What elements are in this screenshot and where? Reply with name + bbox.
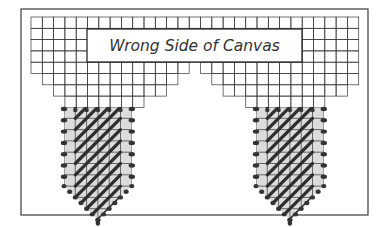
grid-cell [223, 74, 234, 85]
grid-cell [257, 62, 268, 73]
grid-cell [144, 85, 155, 96]
grid-cell [54, 62, 65, 73]
grid-cell [88, 74, 99, 85]
stitch-dot [276, 108, 280, 112]
grid-cell [65, 85, 76, 96]
grid-cell [76, 17, 87, 28]
stitch-dot [253, 175, 259, 179]
grid-cell [65, 96, 76, 107]
grid-cell [347, 62, 358, 73]
stitch-dot [61, 152, 67, 156]
grid-cell [133, 85, 144, 96]
grid-cell [336, 62, 347, 73]
stitch-dot [129, 184, 134, 188]
grid-cell [167, 74, 178, 85]
grid-cell [223, 17, 234, 28]
stitch-dot [288, 108, 292, 112]
stitch-dot [107, 108, 111, 112]
stitch-dot [304, 201, 309, 205]
grid-cell [167, 62, 178, 73]
grid-cell [257, 74, 268, 85]
stitch-dot [321, 118, 327, 122]
grid-cell [325, 85, 336, 96]
stitch-dot [118, 195, 123, 199]
grid-cell [302, 85, 313, 96]
stitch-dot [270, 201, 275, 205]
stitch-dot [129, 118, 135, 122]
grid-cell [291, 74, 302, 85]
grid-cell [99, 74, 110, 85]
stitch-dot [299, 207, 304, 211]
grid-cell [31, 62, 42, 73]
grid-cell [223, 85, 234, 96]
stitch-dot [321, 163, 327, 167]
grid-cell [291, 62, 302, 73]
grid-cell [54, 28, 65, 39]
grid-cell [189, 17, 200, 28]
stitch-dot [73, 108, 77, 112]
stitch-dot [253, 107, 259, 111]
grid-cell [314, 40, 325, 51]
grid-cell [121, 96, 132, 107]
grid-cell [234, 17, 245, 28]
grid-cell [268, 62, 279, 73]
grid-cell [347, 28, 358, 39]
grid-cell [110, 85, 121, 96]
diagonal-stitch [75, 62, 120, 107]
grid-cell [110, 96, 121, 107]
stitch-dot [321, 141, 327, 145]
grid-cell [201, 17, 212, 28]
grid-cell [65, 28, 76, 39]
grid-cell [257, 85, 268, 96]
grid-cell [155, 85, 166, 96]
grid-cell [76, 74, 87, 85]
grid-cell [268, 74, 279, 85]
grid-cell [76, 62, 87, 73]
stitch-dot [78, 201, 83, 205]
grid-cell [54, 85, 65, 96]
stitch-dot [259, 190, 264, 194]
grid-cell [223, 62, 234, 73]
grid-cell [110, 74, 121, 85]
grid-cell [347, 40, 358, 51]
grid-cell [54, 74, 65, 85]
grid-cell [291, 96, 302, 107]
grid-cell [31, 17, 42, 28]
stitch-dot [253, 184, 258, 188]
grid-cell [212, 17, 223, 28]
grid-cell [325, 28, 336, 39]
grid-cell [268, 96, 279, 107]
canvas-diagram: Wrong Side of Canvas [0, 0, 385, 227]
grid-cell [302, 51, 313, 62]
grid-cell [314, 28, 325, 39]
stitch-dot [96, 220, 100, 226]
grid-cell [42, 62, 53, 73]
stitch-dot [107, 207, 112, 211]
grid-cell [246, 96, 257, 107]
grid-cell [212, 74, 223, 85]
grid-cell [76, 96, 87, 107]
grid-cell [246, 17, 257, 28]
grid-cell [314, 62, 325, 73]
grid-cell [54, 40, 65, 51]
grid-cell [314, 51, 325, 62]
grid-cell [42, 28, 53, 39]
grid-cell [347, 51, 358, 62]
grid-cell [302, 17, 313, 28]
grid-cell [336, 17, 347, 28]
stitch-dot [253, 163, 259, 167]
grid-cell [291, 17, 302, 28]
grid-cell [257, 96, 268, 107]
stitch-dot [96, 108, 100, 112]
stitch-dot [253, 152, 259, 156]
grid-cell [144, 62, 155, 73]
grid-cell [178, 62, 189, 73]
grid-cell [336, 85, 347, 96]
grid-cell [31, 28, 42, 39]
grid-cell [325, 17, 336, 28]
stitch-dot [90, 212, 95, 216]
grid-cell [121, 74, 132, 85]
stitch-dot [61, 118, 67, 122]
grid-cell [31, 51, 42, 62]
grid-cell [99, 85, 110, 96]
